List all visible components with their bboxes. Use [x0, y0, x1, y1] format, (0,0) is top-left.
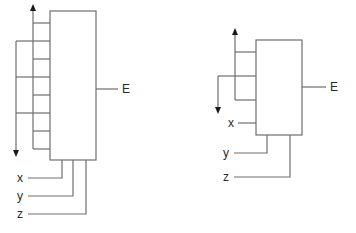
arrow-up-icon — [30, 4, 36, 11]
left-outer-rail — [13, 41, 33, 157]
left-input-x-line — [28, 160, 62, 178]
right-input-y-label: y — [223, 146, 229, 160]
right-output-label: E — [330, 80, 338, 94]
left-input-z-line — [28, 160, 86, 214]
left-block — [50, 11, 96, 160]
right-input-x-label: x — [228, 116, 234, 130]
left-output-label: E — [122, 82, 130, 96]
right-diagram: E x y z — [215, 28, 338, 184]
left-diagram: E x y z — [13, 4, 130, 221]
right-ladder — [232, 28, 256, 100]
right-outer-rail — [215, 76, 235, 114]
right-block — [256, 40, 302, 135]
diagram-canvas: E x y z E x y z — [0, 0, 356, 233]
left-input-z-label: z — [17, 207, 23, 221]
arrow-down-icon — [13, 150, 19, 157]
arrow-down-icon — [215, 107, 221, 114]
right-input-z-label: z — [223, 170, 229, 184]
left-input-x-label: x — [17, 171, 23, 185]
left-input-y-label: y — [17, 189, 23, 203]
right-input-z-line — [234, 135, 290, 177]
arrow-up-icon — [232, 28, 238, 35]
right-input-y-line — [234, 135, 267, 153]
